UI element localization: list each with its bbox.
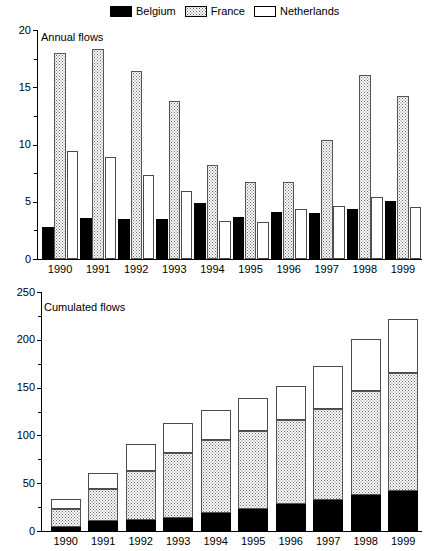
stack-segment-netherlands bbox=[313, 366, 343, 409]
stack-segment-belgium bbox=[51, 527, 81, 531]
x-tick-label: 1992 bbox=[122, 536, 160, 547]
bar-belgium bbox=[118, 219, 130, 259]
bar-netherlands bbox=[181, 191, 193, 259]
x-tick-label: 1997 bbox=[308, 264, 346, 275]
y-tick-minor bbox=[34, 116, 37, 117]
x-axis-cumulated bbox=[41, 531, 422, 532]
y-tick-label: 150 bbox=[17, 382, 35, 393]
bar-france bbox=[245, 182, 257, 259]
bar-france bbox=[169, 101, 181, 259]
stack-segment-belgium bbox=[313, 500, 343, 531]
x-tick-label: 1998 bbox=[346, 264, 384, 275]
bar-belgium bbox=[309, 213, 321, 259]
stack-segment-belgium bbox=[238, 509, 268, 531]
figure-root: Belgium France Netherlands Annual flows … bbox=[0, 0, 427, 551]
bar-belgium bbox=[385, 201, 397, 259]
bar-netherlands bbox=[295, 209, 307, 259]
stack-segment-france bbox=[238, 431, 268, 509]
stack-segment-france bbox=[388, 373, 418, 491]
x-tick-label: 1990 bbox=[41, 264, 79, 275]
x-tick-label: 1996 bbox=[272, 536, 310, 547]
y-tick-minor bbox=[34, 59, 37, 60]
stack-segment-belgium bbox=[163, 518, 193, 531]
y-tick-label: 5 bbox=[25, 196, 31, 207]
y-tick-major bbox=[37, 388, 41, 389]
bar-france bbox=[131, 71, 143, 259]
x-tick-label: 1993 bbox=[160, 536, 198, 547]
stack-segment-netherlands bbox=[238, 398, 268, 431]
stack-segment-france bbox=[88, 489, 118, 522]
y-tick-minor bbox=[38, 364, 41, 365]
stack-segment-belgium bbox=[88, 521, 118, 531]
x-tick-label: 1998 bbox=[347, 536, 385, 547]
bar-france bbox=[54, 53, 66, 259]
bar-netherlands bbox=[219, 221, 231, 259]
stack-segment-netherlands bbox=[351, 339, 381, 392]
bar-belgium bbox=[347, 209, 359, 259]
y-tick-major bbox=[33, 202, 37, 203]
stack-segment-belgium bbox=[276, 504, 306, 531]
bar-france bbox=[321, 140, 333, 259]
x-tick-label: 1994 bbox=[197, 536, 235, 547]
y-tick-minor bbox=[38, 316, 41, 317]
x-tick-label: 1993 bbox=[155, 264, 193, 275]
bar-france bbox=[92, 49, 104, 259]
y-tick-label: 200 bbox=[17, 334, 35, 345]
panel-annual-flows: Annual flows 051015201990199119921993199… bbox=[0, 0, 427, 280]
stack-segment-belgium bbox=[126, 520, 156, 531]
stack-segment-belgium bbox=[388, 491, 418, 531]
stack-segment-france bbox=[163, 453, 193, 518]
y-axis-cumulated bbox=[41, 292, 42, 531]
y-tick-minor bbox=[38, 459, 41, 460]
bar-france bbox=[397, 96, 409, 259]
y-tick-minor bbox=[34, 230, 37, 231]
bar-france bbox=[283, 182, 295, 259]
bar-belgium bbox=[233, 217, 245, 259]
bar-belgium bbox=[271, 212, 283, 259]
y-tick-major bbox=[33, 259, 37, 260]
stack-segment-belgium bbox=[351, 495, 381, 531]
bar-netherlands bbox=[333, 206, 345, 259]
y-tick-minor bbox=[34, 173, 37, 174]
bar-belgium bbox=[80, 218, 92, 259]
x-tick-label: 1995 bbox=[232, 264, 270, 275]
stack-segment-netherlands bbox=[388, 319, 418, 373]
bar-belgium bbox=[156, 219, 168, 259]
bar-belgium bbox=[42, 227, 54, 259]
stack-segment-belgium bbox=[201, 513, 231, 531]
y-tick-major bbox=[37, 340, 41, 341]
x-tick-label: 1996 bbox=[270, 264, 308, 275]
x-tick-label: 1990 bbox=[47, 536, 85, 547]
bar-netherlands bbox=[257, 222, 269, 259]
y-tick-major bbox=[37, 483, 41, 484]
x-tick-label: 1995 bbox=[235, 536, 273, 547]
y-tick-major bbox=[37, 435, 41, 436]
y-tick-major bbox=[33, 87, 37, 88]
y-axis-annual bbox=[37, 30, 38, 259]
stack-segment-netherlands bbox=[163, 423, 193, 453]
x-tick-label: 1994 bbox=[193, 264, 231, 275]
stack-segment-france bbox=[126, 471, 156, 521]
y-tick-label: 10 bbox=[19, 139, 31, 150]
x-tick-label: 1999 bbox=[384, 264, 422, 275]
y-tick-label: 100 bbox=[17, 430, 35, 441]
panel-cumulated-flows: Cumulated flows 050100150200250199019911… bbox=[0, 280, 427, 551]
bar-belgium bbox=[194, 203, 206, 259]
stack-segment-netherlands bbox=[126, 444, 156, 471]
y-tick-major bbox=[33, 30, 37, 31]
bar-france bbox=[207, 165, 219, 259]
y-tick-major bbox=[33, 145, 37, 146]
y-tick-label: 0 bbox=[25, 254, 31, 265]
stack-segment-netherlands bbox=[51, 499, 81, 509]
stack-segment-netherlands bbox=[88, 473, 118, 489]
stack-segment-netherlands bbox=[201, 410, 231, 441]
y-tick-major bbox=[37, 292, 41, 293]
stack-segment-france bbox=[313, 409, 343, 501]
bar-netherlands bbox=[105, 157, 117, 259]
y-tick-minor bbox=[38, 507, 41, 508]
y-tick-label: 20 bbox=[19, 25, 31, 36]
bar-netherlands bbox=[371, 197, 383, 259]
plot-area-annual-flows bbox=[37, 30, 422, 259]
stack-segment-france bbox=[51, 509, 81, 527]
x-axis-annual bbox=[37, 259, 422, 260]
